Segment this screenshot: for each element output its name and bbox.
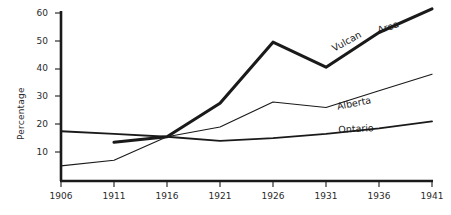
series-line-ontario xyxy=(61,121,432,140)
series-label-ontario: Ontario xyxy=(338,122,374,135)
series-line-alberta xyxy=(61,74,432,166)
line-chart: Percentage 60 50 40 30 20 10 1906 1911 1… xyxy=(0,0,451,215)
